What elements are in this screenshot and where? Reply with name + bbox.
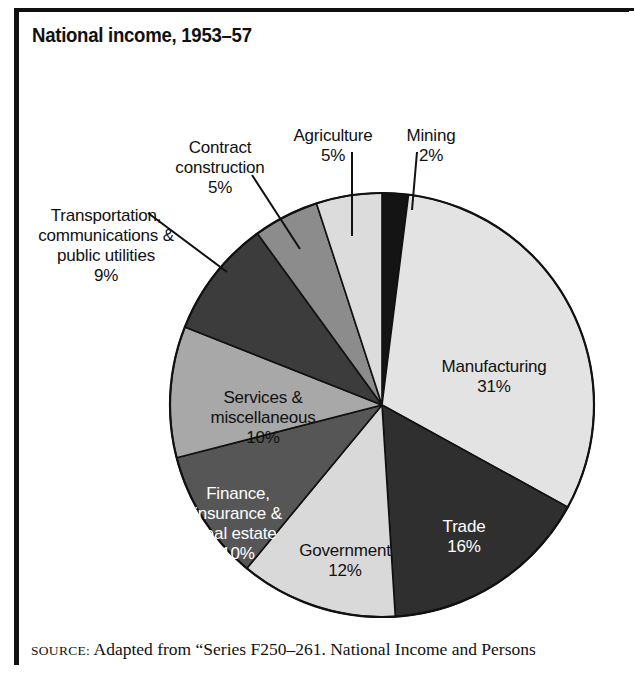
pie-chart: Agriculture 5% Mining 2% Contract constr… — [0, 0, 634, 640]
slice-value-services: 10% — [189, 428, 337, 448]
slice-label-agriculture-text: Agriculture — [293, 126, 372, 145]
slice-label-manufacturing-text: Manufacturing — [441, 357, 546, 376]
slice-value-transportation: 9% — [8, 266, 204, 286]
slice-label-trade: Trade 16% — [419, 497, 509, 577]
slice-value-trade: 16% — [419, 537, 509, 557]
source-note: SOURCE: Adapted from “Series F250–261. N… — [31, 639, 621, 660]
slice-value-finance: 10% — [177, 544, 299, 564]
slice-label-government-text: Government — [299, 541, 391, 560]
slice-label-services: Services & miscellaneous 10% — [189, 368, 337, 468]
slice-label-manufacturing: Manufacturing 31% — [419, 337, 569, 417]
slice-label-finance-text: Finance, insurance & real estate — [194, 484, 282, 543]
slice-label-finance: Finance, insurance & real estate 10% — [177, 464, 299, 584]
slice-label-transportation-text: Transportation, communications & public … — [38, 206, 174, 265]
source-text: Adapted from “Series F250–261. National … — [90, 639, 536, 659]
slice-value-manufacturing: 31% — [419, 377, 569, 397]
slice-label-mining-text: Mining — [407, 126, 456, 145]
source-label: SOURCE: — [31, 643, 90, 658]
slice-label-contract-construction-text: Contract construction — [175, 138, 264, 177]
slice-label-mining: Mining 2% — [386, 106, 476, 186]
slice-value-mining: 2% — [386, 146, 476, 166]
figure-page: National income, 1953–57 Agriculture 5% … — [0, 0, 634, 673]
slice-label-services-text: Services & miscellaneous — [210, 388, 315, 427]
slice-label-transportation: Transportation, communications & public … — [8, 186, 204, 306]
slice-label-trade-text: Trade — [443, 517, 486, 536]
